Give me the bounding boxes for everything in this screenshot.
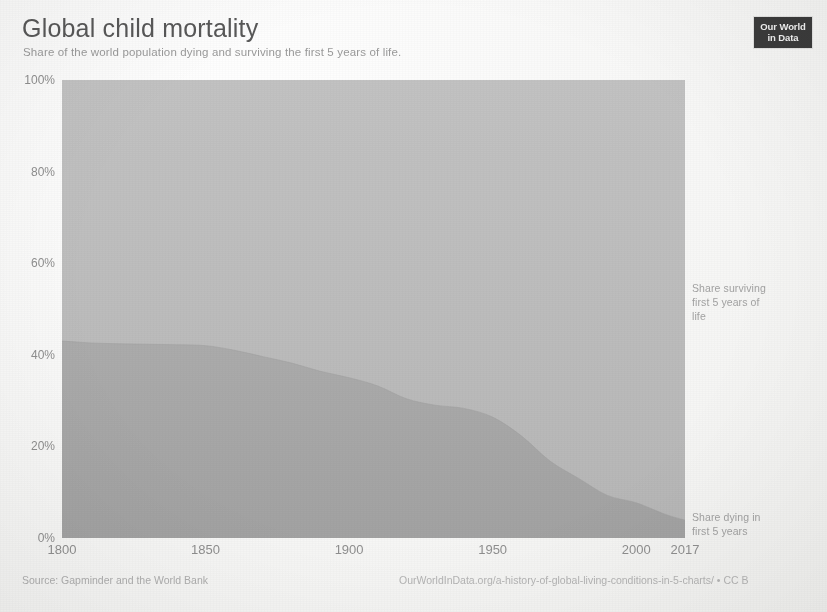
x-axis-tick-1800: 1800 <box>48 542 77 557</box>
page-subtitle: Share of the world population dying and … <box>23 46 401 58</box>
y-axis: 0%20%40%60%80%100% <box>0 0 55 612</box>
x-axis-tick-1850: 1850 <box>191 542 220 557</box>
x-axis-tick-1900: 1900 <box>335 542 364 557</box>
y-axis-tick-40: 40% <box>31 348 55 362</box>
stacked-area-chart <box>62 80 685 538</box>
footer-source: Source: Gapminder and the World Bank <box>22 574 208 586</box>
label-share-surviving: Share surviving first 5 years of life <box>692 282 812 324</box>
x-axis-tick-1950: 1950 <box>478 542 507 557</box>
y-axis-tick-20: 20% <box>31 439 55 453</box>
y-axis-tick-100: 100% <box>24 73 55 87</box>
y-axis-tick-60: 60% <box>31 256 55 270</box>
our-world-in-data-logo[interactable]: Our World in Data <box>754 17 812 48</box>
footer-attribution[interactable]: OurWorldInData.org/a-history-of-global-l… <box>399 574 749 586</box>
label-share-dying: Share dying in first 5 years <box>692 511 812 539</box>
chart-plot-area <box>62 80 685 538</box>
y-axis-tick-80: 80% <box>31 165 55 179</box>
x-axis-tick-2017: 2017 <box>671 542 700 557</box>
page-title: Global child mortality <box>22 14 258 43</box>
chart-page: Global child mortality Share of the worl… <box>0 0 827 612</box>
logo-line-2: in Data <box>768 33 799 43</box>
x-axis-tick-2000: 2000 <box>622 542 651 557</box>
logo-line-1: Our World <box>760 22 805 32</box>
